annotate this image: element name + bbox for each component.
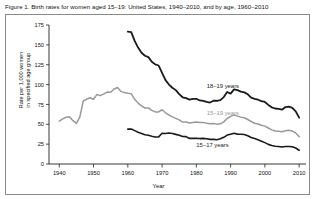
y-tick-label: 100	[35, 82, 45, 88]
x-tick-label: 2010	[293, 170, 306, 176]
x-tick-label: 1960	[121, 170, 134, 176]
y-tick-label: 75	[38, 102, 44, 108]
x-tick-label: 1940	[53, 170, 66, 176]
y-tick-label: 175	[35, 22, 45, 28]
figure-title: Figure 1. Birth rates for women aged 15–…	[5, 3, 312, 11]
series-annotation-18-19: 18–19 years	[207, 83, 239, 89]
figure-container: Figure 1. Birth rates for women aged 15–…	[0, 0, 317, 199]
x-tick-label: 2000	[259, 170, 272, 176]
x-tick-label: 1950	[87, 170, 100, 176]
x-tick-label: 1980	[190, 170, 203, 176]
y-tick-label: 125	[35, 62, 45, 68]
series-line-18-19	[128, 32, 299, 118]
x-tick-label: 1990	[224, 170, 237, 176]
line-chart-plot: 0255075100125150175194019501960197019801…	[6, 15, 311, 196]
y-tick-label: 0	[41, 161, 44, 167]
series-annotation-15-19: 15–19 years	[207, 110, 239, 116]
x-tick-label: 1970	[156, 170, 169, 176]
y-tick-label: 50	[38, 121, 44, 127]
y-tick-label: 25	[38, 141, 44, 147]
plot-frame: Rate per 1,000 women in specified age gr…	[5, 14, 310, 195]
y-tick-label: 150	[35, 42, 45, 48]
series-annotation-15-17: 15–17 years	[196, 142, 228, 148]
